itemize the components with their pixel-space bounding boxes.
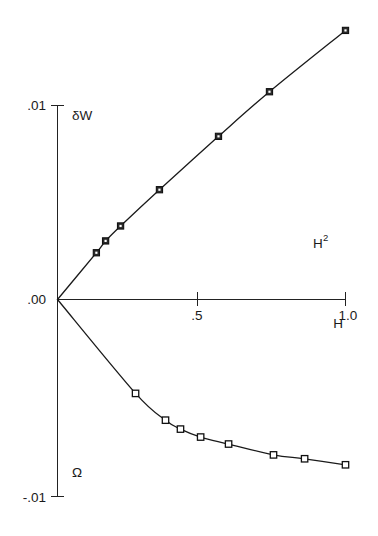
- data-point-marker: [162, 417, 168, 423]
- data-point-marker: [270, 452, 276, 458]
- x-axis-label-h: H: [333, 316, 343, 331]
- data-point-marker-core: [268, 91, 270, 93]
- data-point-marker-core: [217, 135, 219, 137]
- data-point-marker-core: [344, 29, 346, 31]
- data-point-marker: [301, 456, 307, 462]
- data-point-marker-core: [105, 240, 107, 242]
- figure-container: .01 .00 -.01 .5 1.0 H 2 H δW Ω: [0, 0, 378, 536]
- y-tick-label-upper: .01: [27, 98, 46, 113]
- x-axis-group: [58, 292, 347, 306]
- data-point-marker: [132, 390, 138, 396]
- y-axis-group: [51, 105, 64, 497]
- x-axis-label-h-squared-exponent: 2: [323, 232, 328, 243]
- x-tick-label-half: .5: [191, 308, 202, 323]
- data-point-marker: [342, 462, 348, 468]
- data-point-marker-core: [158, 189, 160, 191]
- series-delta-w: [58, 27, 349, 299]
- y-tick-label-lower: -.01: [23, 490, 46, 505]
- x-axis-label-h-squared-base: H: [313, 236, 323, 251]
- data-point-marker: [177, 426, 183, 432]
- plot-svg: .01 .00 -.01 .5 1.0 H 2 H δW Ω: [0, 0, 378, 536]
- series-omega: [58, 300, 349, 468]
- data-point-marker-core: [95, 252, 97, 254]
- series-label-omega: Ω: [72, 465, 82, 480]
- series-label-delta-w: δW: [72, 108, 93, 123]
- y-tick-label-zero: .00: [27, 292, 46, 307]
- curve-δW: [58, 30, 346, 299]
- data-point-marker: [225, 441, 231, 447]
- data-point-marker: [197, 434, 203, 440]
- data-point-marker-core: [119, 225, 121, 227]
